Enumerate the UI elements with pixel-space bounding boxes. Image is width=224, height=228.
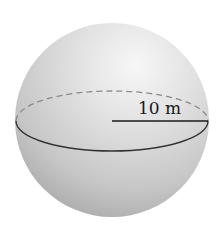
sphere-body xyxy=(15,23,209,217)
radius-label: 10 m xyxy=(138,98,181,118)
sphere-diagram: 10 m xyxy=(0,0,224,228)
sphere-svg: 10 m xyxy=(0,0,224,228)
